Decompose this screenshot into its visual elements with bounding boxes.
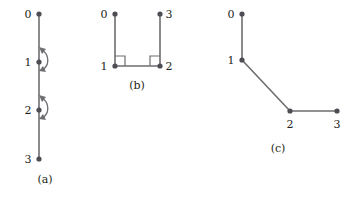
panel-c-vertices [239,11,339,113]
atom-index-0: 0 [101,8,108,21]
panel-b-bonds [115,14,160,66]
panel-b: 0 1 2 3 (b) [101,8,173,92]
panel-b-labels: 0 1 2 3 [101,8,173,73]
panel-a: 0 1 2 3 (a) [25,8,53,186]
vertex-0 [112,11,117,16]
vertex-2 [287,108,292,113]
atom-index-1: 1 [101,60,108,73]
vertex-2 [157,63,162,68]
vertex-1 [36,59,41,64]
panel-caption-b: (b) [129,79,145,92]
atom-index-2: 2 [25,104,32,117]
panel-caption-a: (a) [37,173,52,186]
torsion-arc-node-1 [39,47,48,72]
panel-c-bonds [242,14,337,111]
atom-index-3: 3 [166,8,173,21]
atom-index-0: 0 [25,8,32,21]
panel-b-right-angle-markers [115,56,160,66]
atom-index-3: 3 [25,153,32,166]
atom-index-2: 2 [287,118,294,131]
torsion-arrowhead-bottom [39,66,46,72]
panel-b-vertices [112,11,162,68]
vertex-1 [239,57,244,62]
vertex-1 [112,63,117,68]
vertex-3 [334,108,339,113]
atom-index-0: 0 [228,8,235,21]
vertex-0 [36,11,41,16]
vertex-3 [36,156,41,161]
figure-root: 0 1 2 3 (a) [0,0,358,200]
panel-c-labels: 0 1 2 3 [228,8,341,131]
panel-a-labels: 0 1 2 3 [25,8,32,166]
vertex-0 [239,11,244,16]
atom-index-1: 1 [25,56,32,69]
atom-index-2: 2 [166,60,173,73]
torsion-arrowhead-bottom [39,114,46,120]
atom-index-1: 1 [228,54,235,67]
atom-index-3: 3 [334,118,341,131]
chain-conformation-figure: 0 1 2 3 (a) [0,0,358,200]
vertex-2 [36,107,41,112]
panel-caption-c: (c) [271,142,286,155]
panel-c: 0 1 2 3 (c) [228,8,341,155]
vertex-3 [157,11,162,16]
bond-1-2 [242,60,290,111]
torsion-arc-node-2 [39,95,48,120]
